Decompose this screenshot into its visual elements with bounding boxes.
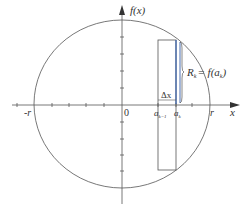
a-k-label: ak <box>174 108 182 119</box>
neg-r-label: -r <box>24 107 31 118</box>
y-axis-label: f(x) <box>130 4 146 17</box>
radius-equation: Rk= f(ak) <box>186 66 226 79</box>
pos-r-label: r <box>210 107 214 118</box>
origin-label: 0 <box>124 107 129 118</box>
diagram-canvas: f(x) x 0 -r r Δx ak−1 ak Rk= f(ak) <box>0 0 250 211</box>
y-axis-arrow-icon <box>119 5 125 15</box>
delta-x-label: Δx <box>161 90 172 100</box>
x-axis-label: x <box>229 106 235 118</box>
a-prev-label: ak−1 <box>154 108 167 119</box>
radius-brace <box>180 42 184 103</box>
